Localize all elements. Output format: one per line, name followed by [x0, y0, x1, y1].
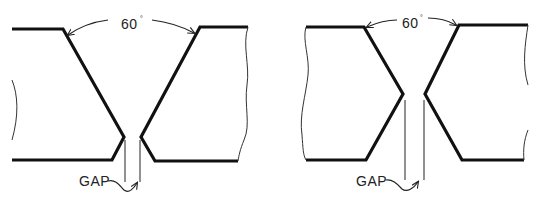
gap-leader-arrow	[108, 181, 137, 192]
angle-label-2: 60	[402, 15, 419, 31]
right-plate-outline	[141, 27, 248, 161]
right-plate-2-break-top	[525, 25, 528, 85]
figure-double-v-groove: 60 ° GAP	[301, 14, 528, 190]
right-plate-break-line	[238, 27, 248, 161]
angle-arrow-right	[152, 20, 194, 33]
left-plate-2-break-line	[301, 27, 308, 160]
left-plate-2-outline	[306, 27, 403, 160]
gap-label: GAP	[79, 173, 110, 189]
right-plate-2-outline	[425, 25, 528, 160]
angle-arrow-left	[68, 20, 108, 35]
gap-leader-arrow-2	[386, 180, 418, 191]
welding-groove-diagram: 60 ° GAP 60 ° GAP	[0, 0, 540, 197]
left-plate	[12, 29, 124, 160]
angle-label: 60	[121, 16, 138, 32]
figure-single-v-groove: 60 ° GAP	[12, 15, 248, 191]
angle-arrow-left-2	[367, 20, 397, 27]
left-plate-outline	[12, 29, 124, 160]
left-plate-2	[301, 27, 403, 160]
angle-arrow-right-2	[428, 18, 456, 25]
left-plate-break-line	[12, 80, 17, 140]
right-plate-2-break-bottom	[524, 130, 528, 160]
gap-label-2: GAP	[356, 173, 387, 189]
degree-symbol-2: °	[420, 14, 423, 21]
right-plate	[141, 27, 248, 161]
degree-symbol: °	[140, 15, 143, 22]
right-plate-2	[425, 25, 528, 160]
